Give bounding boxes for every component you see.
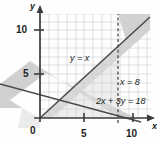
graph-figure: y x 10 5 0 5 10 y = x x = 8 2x + 3y = 18 <box>0 0 161 147</box>
x-tick-label-5: 5 <box>81 129 87 139</box>
line-y-equals-x-label: y = x <box>70 54 89 63</box>
y-tick-label-5: 5 <box>23 69 29 79</box>
x-tick-label-10: 10 <box>126 129 137 139</box>
origin-label: 0 <box>30 126 36 136</box>
line-x-equals-8-label: x = 8 <box>120 78 140 87</box>
line-2x-3y-18-label: 2x + 3y = 18 <box>96 97 146 106</box>
y-tick-label-10: 10 <box>16 25 27 35</box>
x-axis-label: x <box>152 122 157 131</box>
y-axis-label: y <box>30 2 35 11</box>
